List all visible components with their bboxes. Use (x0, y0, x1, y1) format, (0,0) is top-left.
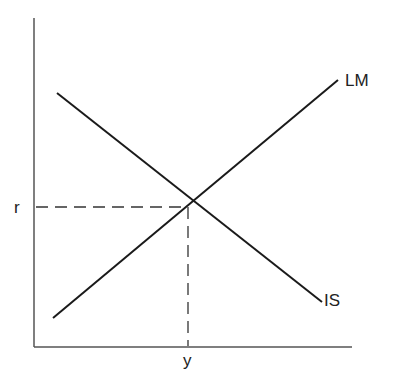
r-label: r (14, 198, 20, 217)
is-lm-diagram: LM IS r y (0, 0, 394, 380)
lm-label: LM (345, 71, 369, 90)
is-curve (57, 93, 322, 302)
y-label: y (183, 351, 192, 370)
is-label: IS (324, 291, 340, 310)
lm-curve (53, 80, 338, 318)
